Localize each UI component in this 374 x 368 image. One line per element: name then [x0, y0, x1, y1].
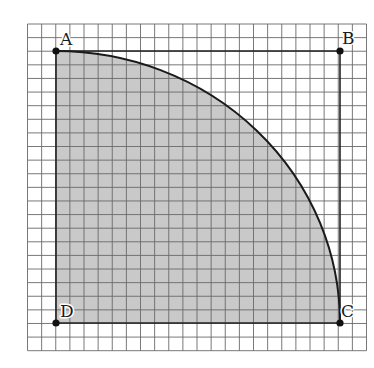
point-a: [52, 47, 59, 54]
label-b: B: [342, 28, 355, 48]
label-c: C: [341, 301, 354, 321]
point-d: [52, 319, 59, 326]
diagram-figure: A B C D: [0, 0, 374, 368]
point-b: [336, 47, 343, 54]
label-a: A: [59, 29, 73, 49]
label-d: D: [60, 301, 74, 321]
